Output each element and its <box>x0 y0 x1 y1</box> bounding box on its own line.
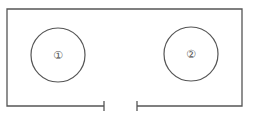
diagram-canvas: ① ② <box>0 0 255 126</box>
circle-2: ② <box>164 27 218 81</box>
circle-1: ① <box>31 28 85 82</box>
room-wall-left <box>7 9 242 106</box>
circle-1-label: ① <box>53 49 63 62</box>
circle-2-label: ② <box>186 48 196 61</box>
